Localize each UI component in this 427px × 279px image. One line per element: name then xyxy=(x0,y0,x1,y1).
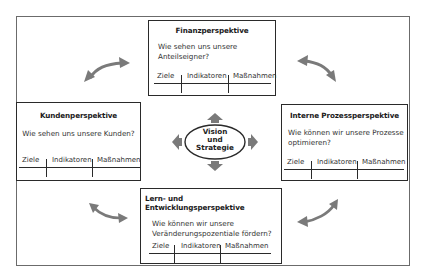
finance-question-line2: Anteilseigner? xyxy=(158,52,275,62)
double-arrow-bottom-right-icon xyxy=(296,198,342,228)
arrow-down-icon xyxy=(207,161,223,171)
process-perspective-box: Interne Prozessperspektive Wie können wi… xyxy=(281,104,408,181)
table-col-line xyxy=(311,161,312,179)
table-divider xyxy=(154,83,271,84)
table-divider xyxy=(149,253,271,254)
arrow-right-icon xyxy=(248,134,258,150)
learning-perspective-box: Lern- und Entwicklungsperspektive Wie kö… xyxy=(140,188,282,264)
customer-perspective-box: Kundenperspektive Wie sehen uns unsere K… xyxy=(16,102,141,181)
col-indicators: Indikatoren xyxy=(317,158,357,166)
customer-question: Wie sehen uns unsere Kunden? xyxy=(17,129,140,139)
table-col-line xyxy=(174,245,175,263)
col-indicators: Indikatoren xyxy=(52,156,92,164)
customer-title: Kundenperspektive xyxy=(17,111,140,120)
table-col-line xyxy=(228,75,229,93)
arrow-left-icon xyxy=(172,134,182,150)
vision-label: Vision und Strategie xyxy=(185,128,245,153)
col-measures: Maßnahmen xyxy=(362,158,405,166)
table-col-line xyxy=(357,161,358,179)
learning-question-line1: Wie können wir unsere xyxy=(152,219,281,229)
learning-question-line2: Veränderungspozentiale fördern? xyxy=(152,229,281,239)
col-indicators: Indikatoren xyxy=(187,72,227,80)
process-table: Ziele Indikatoren Maßnahmen xyxy=(284,157,404,179)
customer-table: Ziele Indikatoren Maßnahmen xyxy=(19,155,140,177)
table-col-line xyxy=(46,159,47,177)
double-arrow-bottom-left-icon xyxy=(88,200,130,228)
vision-line3: Strategie xyxy=(185,144,245,152)
finance-table: Ziele Indikatoren Maßnahmen xyxy=(154,71,271,93)
finance-perspective-box: Finanzperspektive Wie sehen uns unsere A… xyxy=(148,20,276,96)
col-goals: Ziele xyxy=(152,242,169,250)
col-goals: Ziele xyxy=(157,72,174,80)
learning-title: Lern- und Entwicklungsperspektive xyxy=(141,194,281,212)
table-divider xyxy=(19,167,140,168)
arrow-up-icon xyxy=(207,113,223,123)
finance-question-line1: Wie sehen uns unsere xyxy=(158,42,275,52)
double-arrow-top-right-icon xyxy=(296,52,346,84)
finance-title: Finanzperspektive xyxy=(149,26,275,35)
double-arrow-top-left-icon xyxy=(82,52,132,84)
table-col-line xyxy=(181,75,182,93)
col-measures: Maßnahmen xyxy=(225,242,268,250)
table-col-line xyxy=(220,245,221,263)
table-col-line xyxy=(92,159,93,177)
learning-question: Wie können wir unsere Veränderungspozent… xyxy=(152,219,281,239)
process-title: Interne Prozessperspektive xyxy=(282,111,407,120)
finance-question: Wie sehen uns unsere Anteilseigner? xyxy=(158,42,275,62)
col-goals: Ziele xyxy=(287,158,304,166)
table-divider xyxy=(284,169,404,170)
col-indicators: Indikatoren xyxy=(181,242,221,250)
learning-table: Ziele Indikatoren Maßnahmen xyxy=(149,241,271,263)
col-measures: Maßnahmen xyxy=(233,72,276,80)
process-question: Wie können wir unsere Prozesse optimiere… xyxy=(288,128,407,148)
process-question-line1: Wie können wir unsere Prozesse xyxy=(288,128,407,138)
col-measures: Maßnahmen xyxy=(97,156,140,164)
process-question-line2: optimieren? xyxy=(288,138,407,148)
col-goals: Ziele xyxy=(22,156,39,164)
